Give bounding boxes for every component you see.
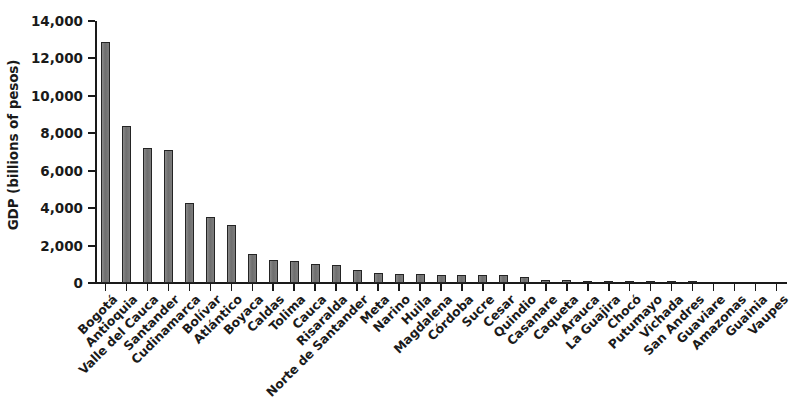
bar xyxy=(562,280,571,283)
bar xyxy=(437,275,446,283)
bar xyxy=(185,203,194,283)
x-axis-tick xyxy=(272,284,274,291)
bar-fill xyxy=(165,151,172,282)
bar-fill xyxy=(123,127,130,282)
x-axis-tick xyxy=(189,284,191,291)
bar-fill xyxy=(207,218,214,282)
bar xyxy=(143,148,152,283)
bar xyxy=(416,274,425,283)
bar-fill xyxy=(417,275,424,282)
x-axis-tick xyxy=(252,284,254,291)
bar-fill xyxy=(144,149,151,282)
bar-fill xyxy=(291,262,298,282)
bar-fill xyxy=(312,265,319,282)
y-axis-tick-label: 4,000 xyxy=(13,202,83,216)
x-axis-tick xyxy=(650,284,652,291)
x-axis-tick xyxy=(419,284,421,291)
gdp-bar-chart: GDP (billions of pesos) 02,0004,0006,000… xyxy=(0,0,797,409)
bar-fill xyxy=(249,255,256,282)
x-axis-tick xyxy=(587,284,589,291)
bar xyxy=(395,274,404,283)
bar xyxy=(541,280,550,283)
bar-fill xyxy=(333,266,340,282)
bar-fill xyxy=(375,274,382,282)
bar xyxy=(499,275,508,283)
x-axis-tick xyxy=(398,284,400,291)
y-axis-tick-label: 8,000 xyxy=(13,127,83,141)
bar-fill xyxy=(500,276,507,282)
bar-fill xyxy=(458,276,465,282)
y-axis-tick xyxy=(88,170,95,172)
bar xyxy=(269,260,278,283)
x-axis-tick xyxy=(671,284,673,291)
y-axis-tick-label: 2,000 xyxy=(13,240,83,254)
x-axis-tick xyxy=(734,284,736,291)
bar xyxy=(374,273,383,283)
bar-fill xyxy=(479,276,486,282)
x-axis-tick xyxy=(147,284,149,291)
bar-fill xyxy=(270,261,277,282)
y-axis-tick-label: 14,000 xyxy=(13,15,83,29)
x-axis-tick xyxy=(356,284,358,291)
bar xyxy=(101,42,110,283)
x-axis-tick xyxy=(629,284,631,291)
bar-fill xyxy=(396,275,403,282)
x-axis-tick xyxy=(692,284,694,291)
x-axis-tick xyxy=(776,284,778,291)
x-axis-tick xyxy=(377,284,379,291)
bar xyxy=(646,281,655,283)
bar xyxy=(311,264,320,283)
x-axis-tick xyxy=(524,284,526,291)
bar-fill xyxy=(521,278,528,282)
bar xyxy=(667,281,676,283)
x-axis-tick xyxy=(210,284,212,291)
x-axis-tick xyxy=(126,284,128,291)
y-axis-tick xyxy=(88,282,95,284)
bar xyxy=(478,275,487,283)
bar xyxy=(227,225,236,283)
bar xyxy=(604,281,613,283)
bar xyxy=(332,265,341,283)
bar xyxy=(164,150,173,283)
x-axis-tick xyxy=(755,284,757,291)
bar xyxy=(206,217,215,283)
bar-fill xyxy=(228,226,235,282)
x-axis-tick xyxy=(545,284,547,291)
y-axis-tick xyxy=(88,245,95,247)
bar xyxy=(122,126,131,283)
bar-fill xyxy=(102,43,109,282)
bar xyxy=(520,277,529,283)
x-axis-tick xyxy=(566,284,568,291)
bar xyxy=(625,281,634,283)
y-axis-tick xyxy=(88,20,95,22)
x-axis-tick xyxy=(231,284,233,291)
y-axis-tick-label: 10,000 xyxy=(13,90,83,104)
x-axis-tick xyxy=(335,284,337,291)
bar xyxy=(290,261,299,283)
x-axis-tick xyxy=(482,284,484,291)
bar xyxy=(353,270,362,283)
y-axis-line xyxy=(95,21,97,284)
x-axis-tick xyxy=(713,284,715,291)
x-axis-tick xyxy=(503,284,505,291)
y-axis-tick xyxy=(88,95,95,97)
y-axis-tick xyxy=(88,57,95,59)
x-axis-tick xyxy=(105,284,107,291)
y-axis-tick-label: 12,000 xyxy=(13,52,83,66)
bar-fill xyxy=(354,271,361,282)
bar xyxy=(688,281,697,283)
bar-fill xyxy=(542,281,549,282)
y-axis-tick xyxy=(88,132,95,134)
x-axis-tick xyxy=(293,284,295,291)
bar-fill xyxy=(563,281,570,282)
x-axis-tick xyxy=(608,284,610,291)
bar-fill xyxy=(438,276,445,282)
y-axis-tick xyxy=(88,207,95,209)
bar xyxy=(583,281,592,283)
bar xyxy=(248,254,257,283)
x-axis-tick xyxy=(461,284,463,291)
bar-fill xyxy=(186,204,193,282)
x-axis-tick xyxy=(314,284,316,291)
bar xyxy=(457,275,466,283)
y-axis-tick-label: 0 xyxy=(13,277,83,291)
